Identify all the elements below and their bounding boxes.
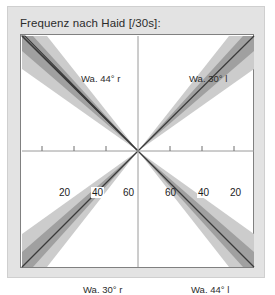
quadrant-label-bottom-left: Wa. 30° r — [83, 284, 122, 295]
plot-area: Wa. 44° r Wa. 30° l Wa. 30° r Wa. 44° l … — [20, 34, 254, 268]
quadrant-top-right-wedges — [138, 36, 254, 151]
page-title: Frequenz nach Haid [/30s]: — [20, 17, 161, 29]
quadrant-label-top-right: Wa. 30° l — [189, 73, 227, 84]
outline-edge-bottom-left — [22, 151, 138, 267]
x-axis-ticks-left — [42, 146, 106, 151]
quadrant-bottom-right-wedges — [138, 151, 254, 267]
quadrant-bottom-left-wedges — [22, 151, 138, 267]
outline-edge-top-right — [138, 36, 254, 151]
butterfly-chart-svg — [21, 35, 255, 269]
x-tick-label-right-60: 60 — [165, 187, 176, 198]
x-tick-label-left-40: 40 — [91, 187, 104, 198]
outline-edge-bottom-right — [138, 151, 254, 267]
outline-edge-top-left — [22, 36, 138, 151]
x-axis-ticks-right — [170, 146, 234, 151]
x-tick-label-right-20: 20 — [230, 187, 241, 198]
x-tick-label-right-40: 40 — [197, 187, 210, 198]
x-tick-label-left-20: 20 — [59, 187, 70, 198]
x-tick-label-left-60: 60 — [123, 187, 134, 198]
quadrant-top-left-wedges — [22, 36, 138, 151]
quadrant-label-bottom-right: Wa. 44° l — [191, 284, 229, 295]
quadrant-label-top-left: Wa. 44° r — [81, 73, 120, 84]
